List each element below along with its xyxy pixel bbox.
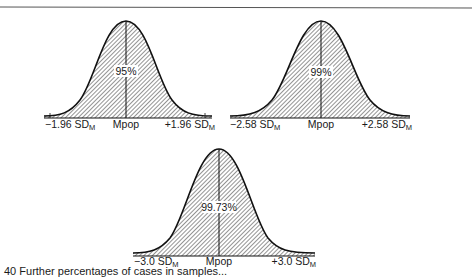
top-rule [0, 7, 472, 8]
tick-label-plus: +3.0 SDM [272, 255, 316, 269]
normal-curve-99-73: 99.73% −3.0 SDM Mpop +3.0 SDM [133, 149, 316, 269]
tick-label-mean: Mpop [113, 118, 139, 130]
normal-curve-99: 99% −2.58 SDM Mpop +2.58 SDM [230, 21, 412, 132]
tick-label-minus: −2.58 SDM [230, 118, 280, 132]
percent-label: 99.73% [201, 201, 237, 213]
tick-label-mean: Mpop [308, 118, 334, 130]
percent-label: 95% [115, 65, 136, 77]
tick-label-plus: +1.96 SDM [165, 118, 215, 132]
tick-label-minus: −1.96 SDM [45, 118, 95, 132]
tick-label-plus: +2.58 SDM [362, 118, 412, 132]
figure-caption: 40 Further percentages of cases in sampl… [4, 265, 227, 277]
percent-label: 99% [310, 66, 331, 78]
normal-curve-95: 95% −1.96 SDM Mpop +1.96 SDM [44, 21, 215, 132]
